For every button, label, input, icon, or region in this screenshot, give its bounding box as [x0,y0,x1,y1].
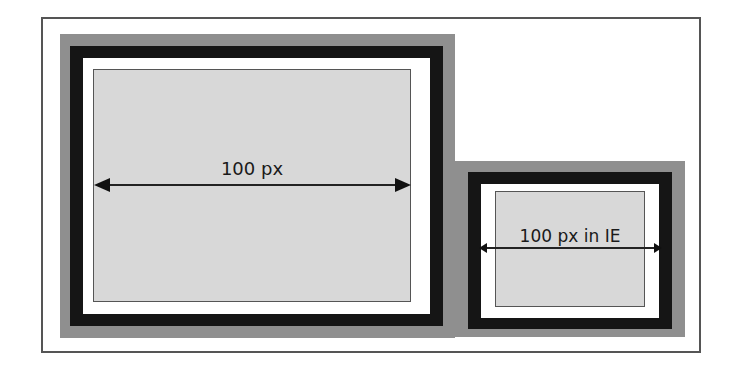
left-arrowhead-left-icon [94,178,110,192]
right-width-label: 100 px in IE [520,226,621,246]
left-width-label: 100 px [221,158,283,179]
right-arrowhead-right-icon [654,243,662,253]
left-width-arrow [100,184,404,186]
right-arrowhead-left-icon [479,243,487,253]
left-arrowhead-right-icon [395,178,411,192]
right-content-area [495,191,645,307]
right-width-arrow [482,247,659,249]
